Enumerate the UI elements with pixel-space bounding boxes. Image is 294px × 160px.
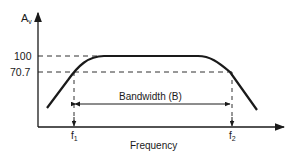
bandwidth-diagram: Av 100 70.7 Bandwidth (B) f1 f2 Frequenc… — [0, 0, 294, 160]
diagram-graphics — [0, 0, 294, 160]
f2-label: f2 — [229, 131, 236, 142]
x-axis-label: Frequency — [130, 141, 177, 151]
f1-label: f1 — [71, 131, 78, 142]
y-axis-label: Av — [21, 13, 32, 25]
bandwidth-label: Bandwidth (B) — [119, 92, 182, 102]
level-70-7-label: 70.7 — [10, 67, 30, 78]
level-100-label: 100 — [14, 51, 32, 62]
